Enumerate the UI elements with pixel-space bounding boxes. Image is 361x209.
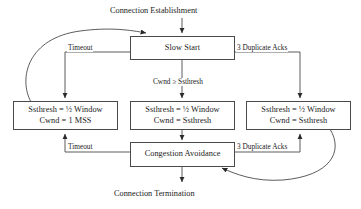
edge-right-box-loop-to-congestion-avoidance xyxy=(222,129,335,180)
node-dupack-right-line2: Cwnd = Ssthresh xyxy=(270,116,328,126)
edge-label-dupacks-top: 3 Duplicate Acks xyxy=(236,44,288,52)
edge-slow-start-dupacks-to-right-box xyxy=(235,52,300,98)
connection-termination-label: Connection Termination xyxy=(114,189,195,198)
node-threshold-middle[interactable]: Ssthresh = ½ Window Cwnd = Ssthresh xyxy=(130,101,235,130)
node-timeout-left[interactable]: Ssthresh = ½ Window Cwnd = 1 MSS xyxy=(13,101,118,130)
node-congestion-avoidance[interactable]: Congestion Avoidance xyxy=(130,142,235,167)
node-timeout-left-line2: Cwnd = 1 MSS xyxy=(39,116,91,126)
node-dupack-right[interactable]: Ssthresh = ½ Window Cwnd = Ssthresh xyxy=(246,101,351,130)
node-congestion-avoidance-label: Congestion Avoidance xyxy=(145,149,221,159)
edge-label-dupacks-bottom: 3 Duplicate Acks xyxy=(236,143,288,151)
node-threshold-middle-line1: Ssthresh = ½ Window xyxy=(145,105,219,115)
edge-label-timeout-top: Timeout xyxy=(67,44,93,52)
edge-left-box-loop-to-slow-start xyxy=(26,29,146,102)
edge-label-timeout-bottom: Timeout xyxy=(67,143,93,151)
tcp-congestion-control-diagram: Connection Establishment Connection Term… xyxy=(0,0,361,209)
edge-label-cwnd-threshold: Cwnd ≥ Ssthresh xyxy=(152,78,204,86)
edge-slow-start-timeout-to-left-box xyxy=(65,52,130,98)
connection-establishment-label: Connection Establishment xyxy=(110,6,197,15)
node-dupack-right-line1: Ssthresh = ½ Window xyxy=(261,105,335,115)
node-threshold-middle-line2: Cwnd = Ssthresh xyxy=(154,116,212,126)
node-slow-start-label: Slow Start xyxy=(165,43,200,53)
node-timeout-left-line1: Ssthresh = ½ Window xyxy=(28,105,102,115)
node-slow-start[interactable]: Slow Start xyxy=(130,36,235,60)
